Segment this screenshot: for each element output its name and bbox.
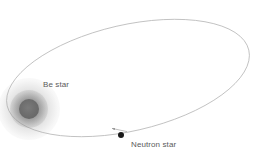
neutron-star-dot — [118, 132, 124, 138]
be-star-label: Be star — [43, 80, 69, 90]
neutron-star-label: Neutron star — [131, 140, 176, 150]
orbit-diagram-canvas: Be star Neutron star — [0, 0, 256, 155]
be-star-core — [19, 99, 39, 119]
orbit-ellipse — [0, 0, 256, 155]
orbit-svg — [0, 0, 256, 155]
